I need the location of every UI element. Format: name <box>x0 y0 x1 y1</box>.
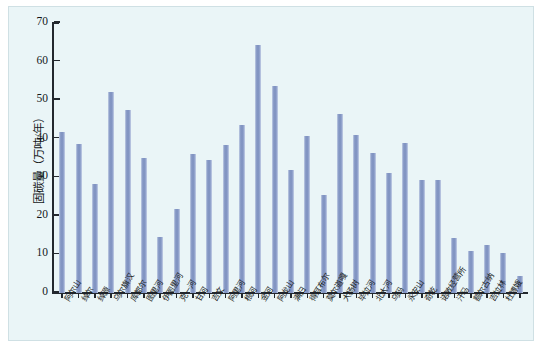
bar <box>223 145 229 294</box>
y-axis-tick-label: 60 <box>2 55 48 67</box>
bar <box>419 180 425 293</box>
x-axis-labels: 阿尔山绰尔绰源乌尔旗汉库都尔图里河伊图里河克一河甘河吉文阿里河根河金河阿龙山满归… <box>54 299 528 355</box>
y-axis-tick-label-wrap: 10 <box>0 253 48 254</box>
x-axis-tick <box>274 294 276 298</box>
y-axis-tick-label: 40 <box>2 132 48 144</box>
x-axis-tick <box>176 294 178 298</box>
bar <box>125 110 131 293</box>
bar <box>370 153 376 293</box>
bar <box>108 92 114 293</box>
y-axis-tick-label-wrap: 20 <box>0 215 48 216</box>
bar <box>288 170 294 293</box>
bars-container <box>54 22 528 293</box>
bar <box>239 125 245 293</box>
x-axis-tick <box>519 294 521 298</box>
bar-chart: 固碳量（万吨/年） 706050403020100 阿尔山绰尔绰源乌尔旗汉库都尔… <box>0 0 542 355</box>
bar <box>468 251 474 293</box>
y-axis-tick-label-wrap: 70 <box>0 22 48 23</box>
x-axis-tick <box>225 294 227 298</box>
y-axis-tick-label: 10 <box>2 247 48 259</box>
x-axis-tick <box>78 294 80 298</box>
bar <box>206 160 212 293</box>
bar <box>255 45 261 293</box>
y-axis-tick-label-wrap: 60 <box>0 61 48 62</box>
bar <box>353 135 359 293</box>
y-axis-title: 固碳量（万吨/年） <box>30 58 46 258</box>
y-axis-tick-label-wrap: 0 <box>0 292 48 293</box>
y-axis-tick-label: 50 <box>2 93 48 105</box>
bar <box>190 154 196 293</box>
bar <box>402 143 408 293</box>
bar <box>59 132 65 293</box>
y-axis-tick-label: 0 <box>2 286 48 298</box>
bar <box>76 144 82 293</box>
bar <box>435 180 441 293</box>
bar <box>141 158 147 293</box>
y-axis-tick-label-wrap: 30 <box>0 176 48 177</box>
bar <box>272 86 278 293</box>
x-axis-tick <box>127 294 129 298</box>
bar <box>386 173 392 293</box>
y-axis-tick-label: 30 <box>2 170 48 182</box>
bar <box>92 184 98 293</box>
bar <box>337 114 343 293</box>
y-axis-tick-label-wrap: 50 <box>0 99 48 100</box>
y-axis-tick-label-wrap: 40 <box>0 138 48 139</box>
y-axis-tick-label: 70 <box>2 16 48 28</box>
bar <box>304 136 310 293</box>
y-axis-tick-label: 20 <box>2 209 48 221</box>
